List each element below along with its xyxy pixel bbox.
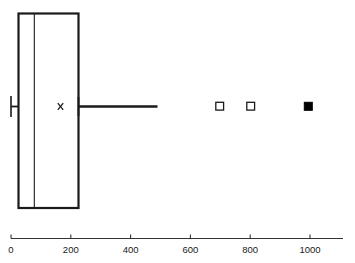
- outlier-filled-square: [304, 102, 312, 110]
- box-iqr-rect: [19, 14, 79, 209]
- x-axis-tick-label: 400: [123, 244, 139, 255]
- x-axis-ticks: [11, 235, 310, 239]
- box-plot-figure: 0 200 400 600 800 1000: [0, 0, 355, 263]
- x-axis-tick-label: 200: [63, 244, 79, 255]
- box-plot-canvas: 0 200 400 600 800 1000: [0, 0, 355, 263]
- x-axis-tick-label: 1000: [299, 244, 320, 255]
- x-axis-tick-labels: 0 200 400 600 800 1000: [8, 244, 320, 255]
- x-axis-tick-label: 800: [242, 244, 258, 255]
- outlier-open-square: [216, 102, 224, 110]
- x-axis-tick-label: 600: [182, 244, 198, 255]
- x-axis-tick-label: 0: [8, 244, 13, 255]
- outlier-open-square: [247, 102, 255, 110]
- mean-x-marker: [58, 103, 63, 110]
